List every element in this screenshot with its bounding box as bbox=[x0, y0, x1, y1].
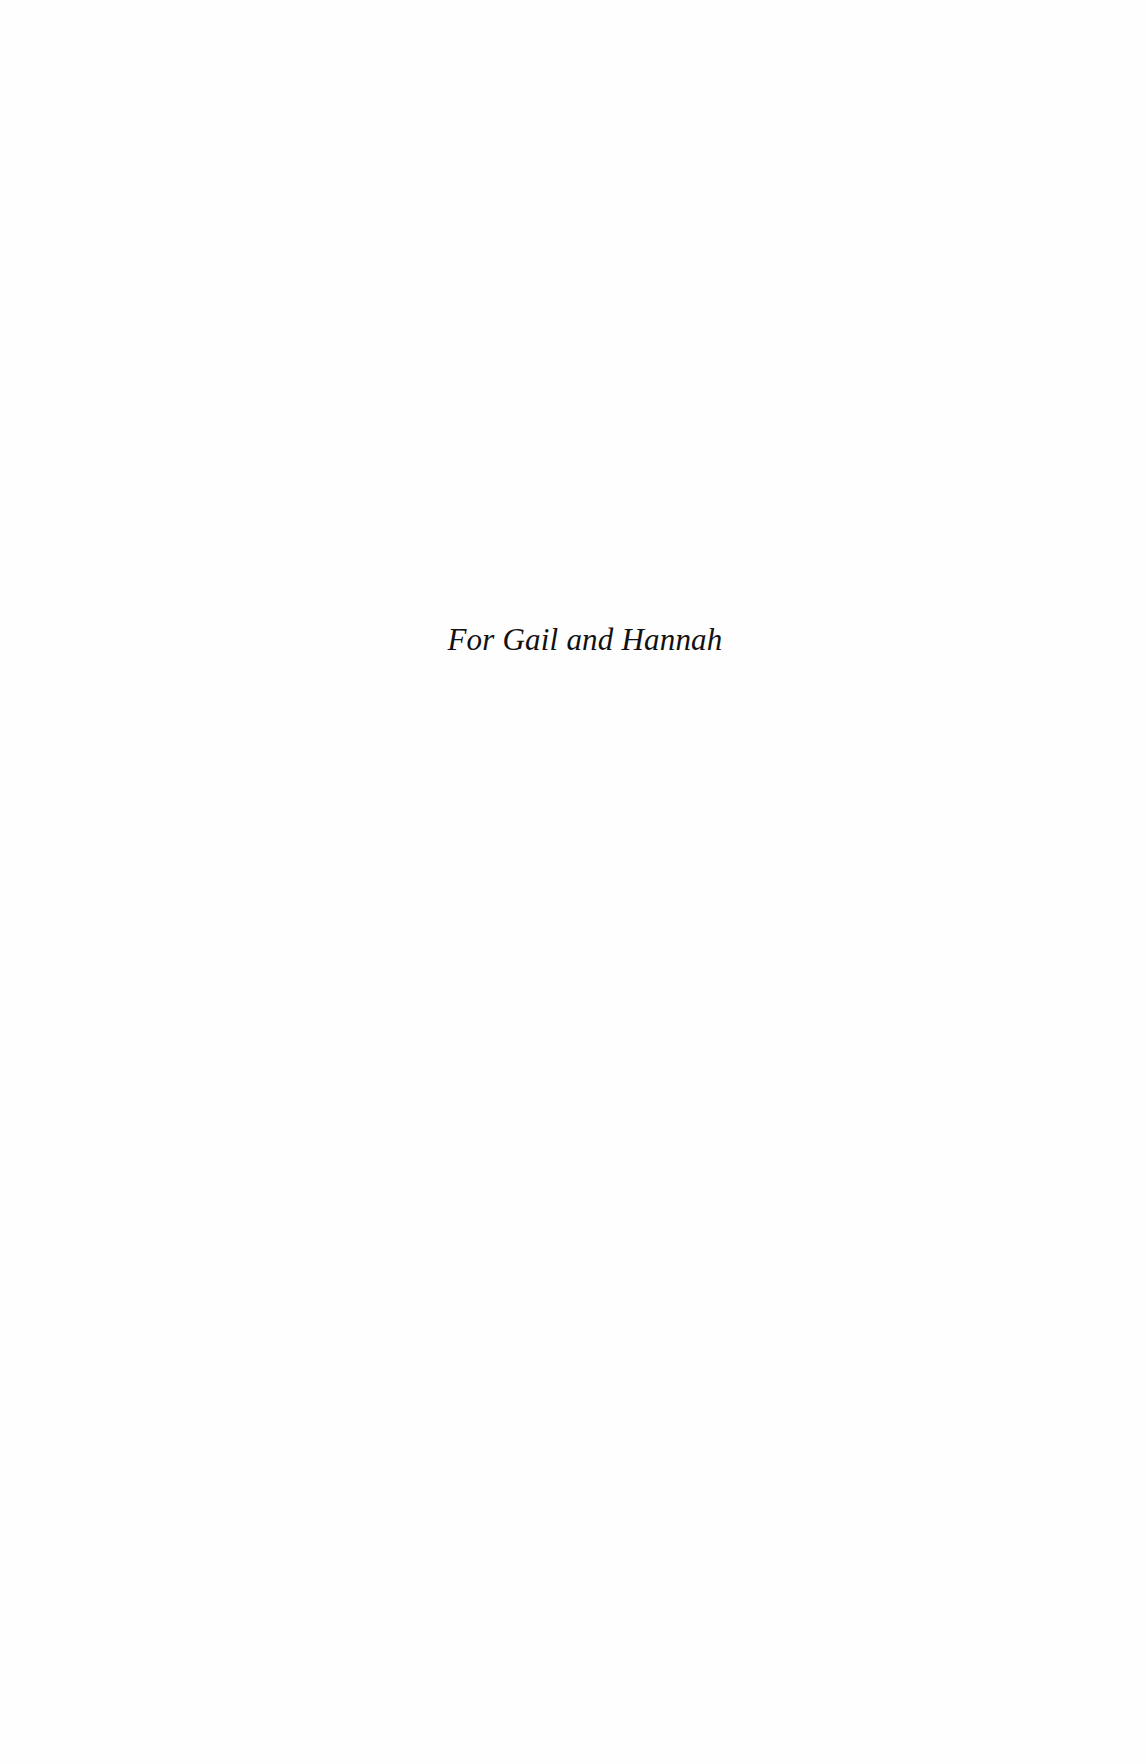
dedication-text: For Gail and Hannah bbox=[0, 622, 1146, 658]
book-page: For Gail and Hannah bbox=[0, 0, 1146, 1764]
